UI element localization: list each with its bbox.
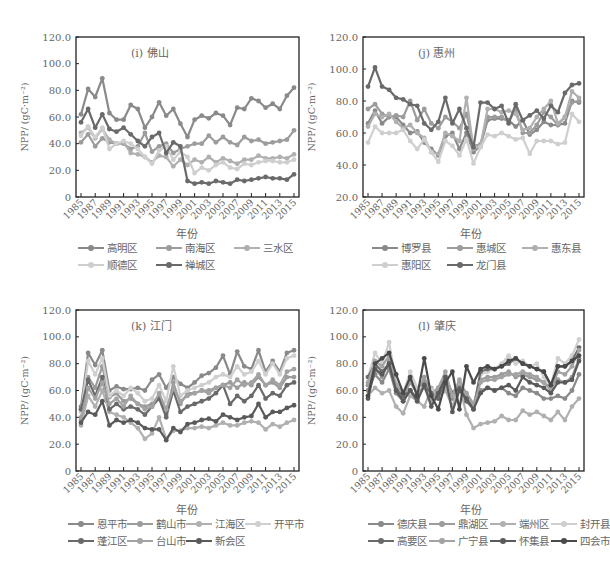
legend-line-marker-icon [372, 261, 398, 269]
panel-title: (j) 惠州 [418, 46, 456, 60]
legend-item: 台山市 [127, 533, 186, 548]
y-tick-label: 120.0 [42, 305, 71, 316]
legend-line-marker-icon [372, 244, 398, 252]
legend-line-marker-icon [245, 520, 271, 528]
legend-line-marker-icon [234, 244, 260, 252]
legend-line-marker-icon [368, 537, 394, 545]
legend-line-marker-icon [186, 520, 212, 528]
y-tick-label: 40.0 [49, 138, 71, 149]
legend-label: 台山市 [156, 533, 186, 548]
legend-label: 广宁县 [458, 533, 488, 548]
legend-line-marker-icon [186, 537, 212, 545]
y-tick-label: 20.0 [49, 439, 71, 450]
x-axis-title-foshan: 年份 [176, 225, 198, 241]
legend-label: 惠城区 [476, 240, 506, 255]
y-axis-title: NPP/ (gC·m⁻²) [306, 356, 317, 425]
legend-label: 鹤山市 [156, 516, 186, 531]
legend-label: 德庆县 [397, 516, 427, 531]
y-tick-label: 60.0 [49, 112, 71, 123]
y-tick-label: 60.0 [49, 385, 71, 396]
legend-item: 鼎湖区 [429, 516, 488, 531]
legend-item: 禅城区 [156, 257, 215, 272]
legend-label: 龙门县 [476, 257, 506, 272]
y-axis-title: NPP/ (gC·m⁻²) [19, 83, 30, 152]
series-line [79, 124, 297, 175]
legend-item: 四会市 [551, 533, 610, 548]
legend-item: 恩平市 [68, 516, 127, 531]
legend-label: 三水区 [263, 240, 293, 255]
legend-label: 蓬江区 [97, 533, 127, 548]
legend-line-marker-icon [368, 520, 394, 528]
y-tick-label: 120.0 [42, 32, 71, 43]
legend-item: 端州区 [490, 516, 549, 531]
y-tick-label: 120.0 [329, 305, 358, 316]
legend-label: 封开县 [580, 516, 610, 531]
legend-item: 德庆县 [368, 516, 427, 531]
legend-label: 博罗县 [401, 240, 431, 255]
legend-item: 龙门县 [447, 257, 506, 272]
legend-item: 怀集县 [490, 533, 549, 548]
y-tick-label: 20.0 [49, 165, 71, 176]
y-tick-label: 80.0 [336, 358, 358, 369]
panel-title: (k) 江门 [131, 319, 172, 333]
plot-frame [76, 37, 299, 197]
panel-title: (i) 佛山 [131, 47, 169, 60]
x-axis-title-zhaoqing: 年份 [460, 501, 482, 517]
legend-line-marker-icon [68, 520, 94, 528]
legend-label: 开平市 [274, 516, 304, 531]
legend-item: 顺德区 [78, 257, 137, 272]
legend-line-marker-icon [127, 520, 153, 528]
y-tick-label: 0 [65, 466, 71, 477]
legend-line-marker-icon [447, 261, 473, 269]
y-tick-label: 100.0 [329, 64, 358, 75]
y-tick-label: 0 [65, 192, 71, 203]
legend-item: 南海区 [156, 240, 215, 255]
y-tick-label: 100.0 [42, 331, 71, 342]
legend-line-marker-icon [68, 537, 94, 545]
legend-item: 鹤山市 [127, 516, 186, 531]
x-axis-title-jiangmen: 年份 [176, 501, 198, 517]
legend-label: 四会市 [580, 533, 610, 548]
legend-label: 惠东县 [551, 240, 581, 255]
y-tick-label: 20.0 [336, 439, 358, 450]
legend-line-marker-icon [156, 261, 182, 269]
panel-title: (l) 肇庆 [418, 319, 456, 333]
legend-label: 禅城区 [185, 257, 215, 272]
y-tick-label: 100.0 [329, 331, 358, 342]
y-tick-label: 40.0 [49, 412, 71, 423]
legend-label: 顺德区 [107, 257, 137, 272]
legend-label: 高明区 [107, 240, 137, 255]
legend-item: 封开县 [551, 516, 610, 531]
legend-label: 高要区 [397, 533, 427, 548]
legend-line-marker-icon [551, 537, 577, 545]
y-tick-label: 0 [352, 466, 358, 477]
legend-item: 新会区 [186, 533, 245, 548]
series-line [366, 65, 582, 150]
legend-label: 鼎湖区 [458, 516, 488, 531]
y-axis-title: NPP/ (gC·m⁻²) [306, 83, 317, 152]
legend-item: 博罗县 [372, 240, 431, 255]
legend-label: 新会区 [215, 533, 245, 548]
legend-item: 江海区 [186, 516, 245, 531]
legend-item: 惠东县 [522, 240, 581, 255]
legend-label: 端州区 [519, 516, 549, 531]
legend-line-marker-icon [78, 244, 104, 252]
legend-item: 广宁县 [429, 533, 488, 548]
y-tick-label: 80.0 [49, 358, 71, 369]
y-tick-label: 100.0 [42, 58, 71, 69]
y-tick-label: 120.0 [329, 32, 358, 43]
legend-line-marker-icon [551, 520, 577, 528]
legend-label: 怀集县 [519, 533, 549, 548]
y-tick-label: 60.0 [336, 128, 358, 139]
legend-item: 高要区 [368, 533, 427, 548]
y-tick-label: 80.0 [336, 96, 358, 107]
legend-line-marker-icon [156, 244, 182, 252]
y-axis-title: NPP/ (gC·m⁻²) [19, 356, 30, 425]
legend-item: 惠城区 [447, 240, 506, 255]
legend-label: 惠阳区 [401, 257, 431, 272]
y-tick-label: 60.0 [336, 385, 358, 396]
legend-line-marker-icon [429, 520, 455, 528]
legend-line-marker-icon [522, 244, 548, 252]
legend-line-marker-icon [127, 537, 153, 545]
legend-label: 恩平市 [97, 516, 127, 531]
